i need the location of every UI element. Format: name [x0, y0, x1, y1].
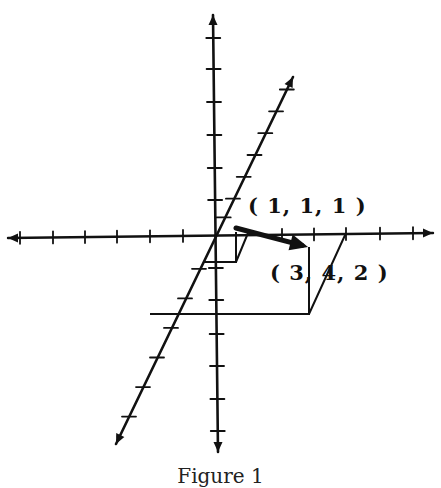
- figure-caption: Figure 1: [0, 466, 441, 486]
- vector-arrow: [236, 228, 308, 250]
- arrow-left-icon: [8, 234, 18, 243]
- oblique-axis: [116, 77, 293, 444]
- label-point-1-1-1: ( 1, 1, 1 ): [248, 195, 367, 216]
- vector-arrowhead-icon: [289, 235, 308, 251]
- axes: [8, 15, 433, 452]
- arrow-down-icon: [214, 442, 223, 452]
- arrow-up-icon: [209, 15, 218, 25]
- label-point-3-4-2: ( 3, 4, 2 ): [270, 262, 389, 283]
- horizontal-axis: [8, 233, 433, 238]
- arrow-right-icon: [423, 229, 433, 238]
